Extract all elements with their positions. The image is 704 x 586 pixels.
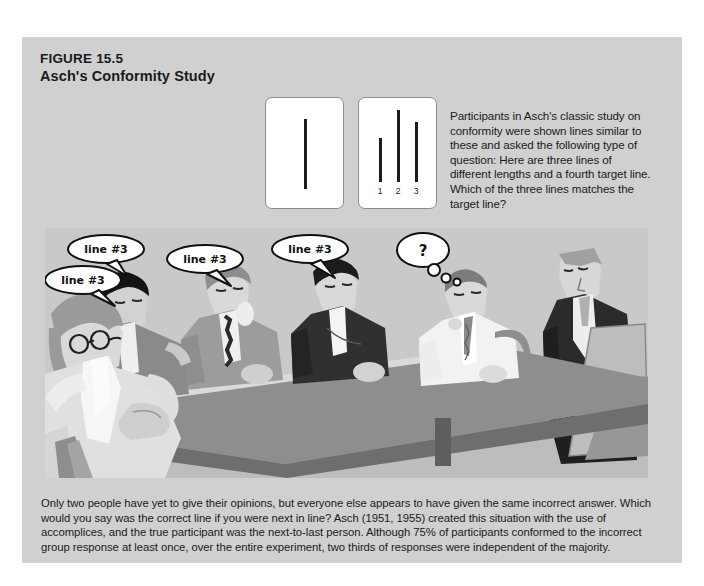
scene-svg: line #3 line #3 line #3 xyxy=(45,228,648,478)
speech-bubble-4-text: line #3 xyxy=(288,243,332,256)
comparison-lines-card: 1 2 3 xyxy=(358,97,437,209)
comparison-line-label-3: 3 xyxy=(411,186,421,196)
figure-container: FIGURE 15.5 Asch's Conformity Study 1 2 … xyxy=(22,37,682,563)
comparison-line-1 xyxy=(379,138,382,182)
thought-bubble-question-text: ? xyxy=(419,242,428,260)
target-line xyxy=(304,119,307,189)
comparison-line-2 xyxy=(397,110,400,182)
figure-number-label: FIGURE 15.5 xyxy=(40,50,460,67)
conformity-scene-illustration: line #3 line #3 line #3 xyxy=(45,228,648,478)
comparison-line-3 xyxy=(415,122,418,182)
stimulus-description-text: Participants in Asch's classic study on … xyxy=(450,109,655,211)
comparison-line-label-1: 1 xyxy=(375,186,385,196)
figure-title-block: FIGURE 15.5 Asch's Conformity Study xyxy=(40,50,460,85)
comparison-line-label-2: 2 xyxy=(393,186,403,196)
speech-bubble-2-text: line #3 xyxy=(61,274,105,287)
speech-bubble-3-text: line #3 xyxy=(183,253,227,266)
speech-bubble-1-text: line #3 xyxy=(84,243,128,256)
figure-caption-text: Only two people have yet to give their o… xyxy=(41,496,663,554)
target-line-card xyxy=(265,97,344,209)
figure-subtitle: Asch's Conformity Study xyxy=(40,67,460,85)
